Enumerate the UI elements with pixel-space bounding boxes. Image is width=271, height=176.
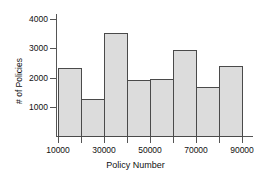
y-tick-label: 4000 bbox=[29, 15, 48, 24]
x-axis-tick-mark bbox=[127, 137, 128, 143]
y-tick-label: 2000 bbox=[29, 74, 48, 83]
bar-bin-2 bbox=[81, 99, 105, 137]
bar-bin-8 bbox=[219, 66, 243, 137]
x-tick-label: 70000 bbox=[184, 146, 208, 155]
y-tick-label: 3000 bbox=[29, 44, 48, 53]
bar-bin-6 bbox=[173, 50, 197, 137]
x-axis-tick-mark bbox=[104, 137, 105, 143]
x-tick-label: 90000 bbox=[230, 146, 254, 155]
x-tick-label: 30000 bbox=[92, 146, 116, 155]
y-axis-line bbox=[56, 14, 57, 137]
x-axis-title: Policy Number bbox=[0, 160, 271, 170]
y-tick-label: 1000 bbox=[29, 103, 48, 112]
bar-bin-7 bbox=[196, 87, 220, 137]
x-axis-tick-mark bbox=[173, 137, 174, 143]
x-axis-tick-mark bbox=[219, 137, 220, 143]
x-axis-tick-mark bbox=[242, 137, 243, 143]
bar-bin-3 bbox=[104, 33, 128, 137]
x-axis-tick-mark bbox=[150, 137, 151, 143]
bar-bin-5 bbox=[150, 79, 174, 137]
bar-series bbox=[58, 8, 250, 137]
x-tick-label: 50000 bbox=[138, 146, 162, 155]
x-axis-tick-mark bbox=[196, 137, 197, 143]
plot-area bbox=[58, 8, 250, 137]
bar-bin-1 bbox=[58, 68, 82, 137]
x-tick-label: 10000 bbox=[46, 146, 70, 155]
histogram-chart: # of Policies 4000 3000 2000 1000 bbox=[0, 0, 271, 176]
x-axis-tick-mark bbox=[58, 137, 59, 143]
bar-bin-4 bbox=[127, 80, 151, 137]
x-axis-tick-mark bbox=[81, 137, 82, 143]
x-axis-tick-labels: 10000 30000 50000 70000 90000 bbox=[0, 146, 271, 160]
